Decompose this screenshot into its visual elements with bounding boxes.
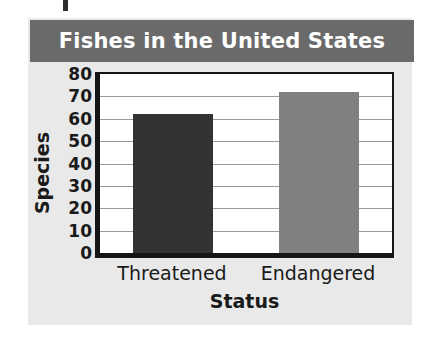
plot-area	[95, 72, 394, 258]
bars-layer	[100, 74, 392, 253]
y-axis-tick-label: 60	[68, 110, 92, 127]
chart-title: Fishes in the United States	[59, 29, 385, 53]
y-axis-tick-label: 50	[68, 133, 92, 150]
bar	[133, 114, 213, 253]
x-axis-tick-label: Endangered	[261, 262, 376, 284]
cropped-text-fragment	[63, 0, 68, 11]
y-axis-tick-label: 40	[68, 155, 92, 172]
y-axis-tick-label: 30	[68, 177, 92, 194]
y-axis-tick-label: 10	[68, 222, 92, 239]
y-axis-tick-label: 20	[68, 200, 92, 217]
y-axis-title-label: Species	[31, 132, 53, 214]
y-axis-tick-label: 0	[80, 245, 92, 262]
bar	[279, 92, 359, 253]
chart-title-bar: Fishes in the United States	[30, 20, 414, 62]
x-axis-tick-label: Threatened	[117, 262, 226, 284]
x-axis-tick-labels: ThreatenedEndangered	[95, 262, 394, 288]
y-axis-tick-labels: 01020304050607080	[56, 72, 92, 258]
y-axis-title: Species	[30, 118, 54, 228]
y-axis-tick-label: 80	[68, 66, 92, 83]
x-axis-title: Status	[95, 290, 394, 312]
y-axis-tick-label: 70	[68, 88, 92, 105]
